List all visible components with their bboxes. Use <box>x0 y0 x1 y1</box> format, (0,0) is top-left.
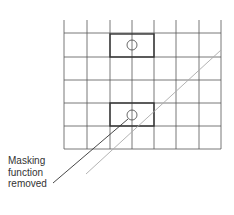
grid <box>64 20 221 149</box>
annotation-line-2: function <box>8 167 47 179</box>
annotation-line-1: Masking <box>8 155 47 167</box>
annotation-label: Masking function removed <box>8 155 47 190</box>
annotation-line-3: removed <box>8 178 47 190</box>
diagonal-line <box>86 50 221 174</box>
